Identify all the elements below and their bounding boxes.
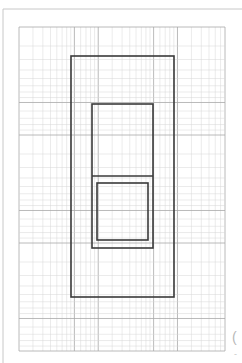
graph-paper-page: [0, 0, 242, 363]
scan-border: [3, 9, 242, 363]
edge-partial-glyph: (: [232, 330, 237, 344]
inner-square: [97, 183, 148, 240]
edge-partial-mark: -: [234, 350, 237, 359]
log-grid: [19, 27, 225, 351]
